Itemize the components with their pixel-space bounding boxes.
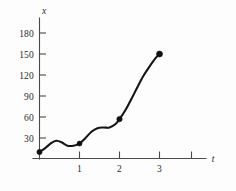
- y-tick-label-60: 60: [24, 113, 34, 123]
- figure-container: 180 150 120 90 60 30 1 2 3 x t: [0, 0, 236, 191]
- x-axis-ticks: [80, 152, 192, 159]
- data-point-markers: [37, 51, 163, 155]
- x-tick-label-2: 2: [117, 164, 122, 174]
- data-point-t3: [157, 51, 163, 57]
- x-tick-label-3: 3: [157, 164, 162, 174]
- y-tick-label-30: 30: [24, 134, 34, 144]
- y-tick-label-180: 180: [19, 29, 34, 39]
- x-axis-label: t: [212, 154, 215, 164]
- y-axis-label: x: [41, 6, 47, 16]
- x-axis-tick-labels: 1 2 3: [77, 164, 162, 174]
- data-curve: [40, 54, 160, 152]
- y-tick-label-90: 90: [24, 92, 34, 102]
- y-tick-label-150: 150: [19, 50, 34, 60]
- data-point-t0: [37, 149, 42, 154]
- y-axis-ticks: [40, 33, 47, 138]
- y-tick-label-120: 120: [19, 71, 34, 81]
- y-axis-tick-labels: 180 150 120 90 60 30: [19, 29, 34, 144]
- data-point-t2: [117, 116, 122, 121]
- line-chart: 180 150 120 90 60 30 1 2 3 x t: [0, 0, 236, 191]
- x-tick-label-1: 1: [77, 164, 82, 174]
- data-point-t1: [77, 141, 82, 146]
